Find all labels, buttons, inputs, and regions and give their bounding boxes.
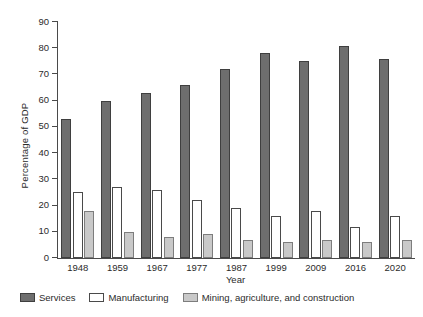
x-axis-title: Year — [57, 274, 414, 285]
bar-mining — [402, 240, 412, 258]
chart-legend: ServicesManufacturingMining, agriculture… — [20, 292, 362, 303]
bar-manufacturing — [271, 216, 281, 258]
x-axis-tick-label: 2020 — [375, 262, 415, 273]
bar-manufacturing — [152, 190, 162, 258]
x-axis-tick-label: 1987 — [217, 262, 257, 273]
y-axis-tick-label: 60 — [9, 94, 49, 105]
x-axis-tick-label: 1959 — [98, 262, 138, 273]
y-axis-tick-label: 70 — [9, 68, 49, 79]
bar-group — [336, 22, 376, 258]
bar-mining — [283, 242, 293, 258]
bar-group — [375, 22, 415, 258]
legend-item: Manufacturing — [89, 292, 168, 303]
bar-group — [217, 22, 257, 258]
bar-mining — [203, 234, 213, 258]
bar-manufacturing — [390, 216, 400, 258]
x-axis-tick-label: 1999 — [256, 262, 296, 273]
bar-group — [58, 22, 98, 258]
bar-services — [220, 69, 230, 258]
bar-services — [61, 119, 71, 258]
bar-services — [299, 61, 309, 258]
bar-group — [137, 22, 177, 258]
bar-group — [98, 22, 138, 258]
bar-mining — [84, 211, 94, 258]
bar-services — [260, 53, 270, 258]
legend-swatch-services — [20, 293, 35, 302]
bar-manufacturing — [112, 187, 122, 258]
x-axis-tick-label: 2009 — [296, 262, 336, 273]
legend-label: Services — [39, 292, 75, 303]
bar-services — [379, 59, 389, 258]
x-axis-tick-label: 1967 — [137, 262, 177, 273]
bar-mining — [243, 240, 253, 258]
bar-group — [177, 22, 217, 258]
bar-manufacturing — [350, 227, 360, 258]
bar-services — [101, 101, 111, 258]
y-axis-tick-label: 20 — [9, 199, 49, 210]
bar-mining — [124, 232, 134, 258]
bar-services — [141, 93, 151, 258]
plot-area: 0102030405060708090 19481959196719771987… — [57, 22, 415, 259]
bar-mining — [164, 237, 174, 258]
bar-group — [256, 22, 296, 258]
x-axis-tick-label: 1977 — [177, 262, 217, 273]
y-axis-tick-label: 30 — [9, 173, 49, 184]
legend-label: Manufacturing — [108, 292, 168, 303]
y-axis-tick-label: 90 — [9, 16, 49, 27]
bars-layer — [58, 22, 415, 258]
bar-manufacturing — [311, 211, 321, 258]
bar-services — [180, 85, 190, 258]
legend-swatch-manufacturing — [89, 293, 104, 302]
bar-mining — [362, 242, 372, 258]
bar-services — [339, 46, 349, 258]
bar-chart: Percentage of GDP 0102030405060708090 19… — [0, 0, 423, 317]
legend-label: Mining, agriculture, and construction — [202, 292, 355, 303]
bar-manufacturing — [192, 200, 202, 258]
x-axis-tick-label: 2016 — [336, 262, 376, 273]
bar-manufacturing — [73, 192, 83, 258]
y-axis-tick-label: 40 — [9, 147, 49, 158]
x-axis-tick-label: 1948 — [58, 262, 98, 273]
y-axis-tick-label: 0 — [9, 252, 49, 263]
bar-manufacturing — [231, 208, 241, 258]
y-axis-tick-label: 80 — [9, 42, 49, 53]
legend-item: Mining, agriculture, and construction — [183, 292, 355, 303]
y-axis-tick-label: 10 — [9, 225, 49, 236]
legend-item: Services — [20, 292, 75, 303]
bar-group — [296, 22, 336, 258]
legend-swatch-mining — [183, 293, 198, 302]
y-axis-tick-label: 50 — [9, 120, 49, 131]
bar-mining — [322, 240, 332, 258]
